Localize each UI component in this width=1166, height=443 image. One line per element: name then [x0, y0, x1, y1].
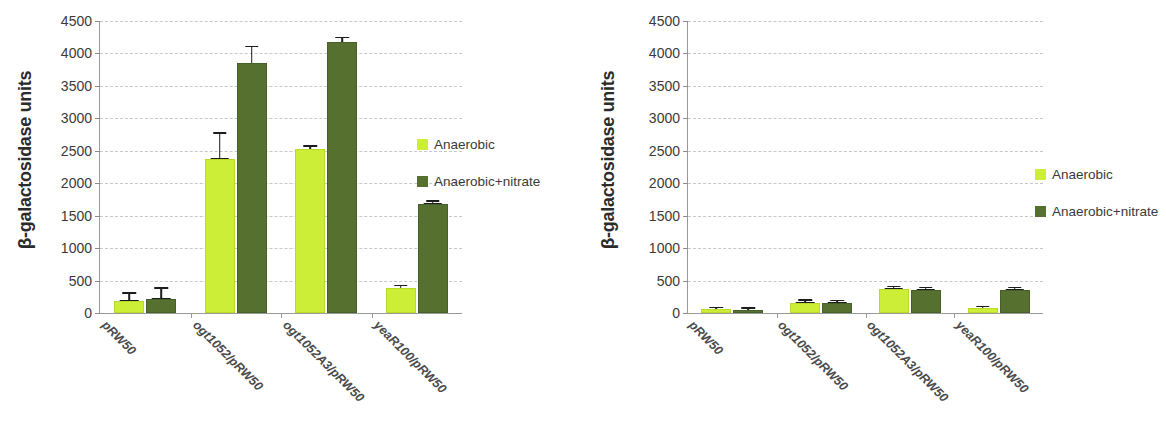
error-bar-cap-top [798, 299, 812, 301]
bar-anaerobic[interactable] [205, 159, 235, 313]
y-axis-tick-label: 1500 [61, 208, 92, 224]
y-axis-tick-label: 3000 [649, 110, 680, 126]
error-bar-cap-top [245, 46, 259, 48]
y-axis-title-beta: β [14, 238, 35, 249]
bar-slot [911, 21, 941, 313]
legend-item-anaerobic: Anaerobic [1035, 167, 1158, 182]
legend-swatch-anaerobic-icon [417, 139, 428, 150]
bar-group [866, 21, 955, 313]
legend-left: Anaerobic Anaerobic+nitrate [417, 137, 540, 211]
bar-anaerobic-nitrate[interactable] [327, 42, 357, 313]
bar-anaerobic-nitrate[interactable] [418, 204, 448, 313]
x-axis-category-label: pRW50 [686, 318, 726, 358]
plot-area-left: 050010001500200025003000350040004500 [100, 21, 462, 313]
x-axis-category-label: ogt1052/pRW50 [190, 318, 266, 394]
bar-anaerobic-nitrate[interactable] [1000, 290, 1030, 313]
y-axis-title-beta: β [597, 238, 618, 249]
bar-slot [386, 21, 416, 313]
y-axis-title-rest: -galactosidase units [15, 71, 35, 238]
y-axis-title-right: β-galactosidase units [591, 0, 625, 320]
bar-anaerobic-nitrate[interactable] [733, 310, 763, 313]
bar-slot [822, 21, 852, 313]
y-axis-tick-label: 1500 [649, 208, 680, 224]
bar-anaerobic[interactable] [114, 301, 144, 313]
legend-swatch-anaerobic-nitrate-icon [417, 176, 428, 187]
error-bar-cap-top [123, 292, 137, 294]
error-bar-cap-top [830, 300, 844, 302]
y-axis-tick-label: 3000 [61, 110, 92, 126]
error-bar-cap-top [155, 287, 169, 289]
y-axis-tick-label: 500 [657, 273, 680, 289]
bar-slot [327, 21, 357, 313]
x-axis-category-label: ogt1052A3/pRW50 [864, 318, 951, 405]
bar-anaerobic-nitrate[interactable] [237, 63, 267, 313]
bar-group [100, 21, 191, 313]
bar-slot [1000, 21, 1030, 313]
bar-anaerobic[interactable] [790, 303, 820, 313]
legend-label-anaerobic: Anaerobic [434, 137, 495, 152]
y-axis-tick-label: 2500 [61, 143, 92, 159]
bar-anaerobic-nitrate[interactable] [911, 290, 941, 313]
bar-anaerobic[interactable] [879, 289, 909, 313]
error-bar-cap-top [976, 306, 990, 308]
error-bar [219, 134, 221, 160]
bar-anaerobic-nitrate[interactable] [146, 299, 176, 313]
y-axis-tick-mark [95, 313, 100, 314]
error-bar-cap-top [887, 286, 901, 288]
y-axis-tick-mark [683, 313, 688, 314]
x-axis-category-label: ogt1052/pRW50 [775, 318, 851, 394]
bar-slot [790, 21, 820, 313]
legend-swatch-anaerobic-icon [1035, 169, 1046, 180]
y-axis-tick-label: 2000 [649, 175, 680, 191]
x-axis-labels-left: pRW50ogt1052/pRW50ogt1052A3/pRW50yeaR100… [100, 318, 462, 438]
y-axis-title-left: β-galactosidase units [8, 0, 42, 320]
bar-group [191, 21, 282, 313]
y-axis-tick-label: 0 [84, 305, 92, 321]
y-axis-tick-label: 2000 [61, 175, 92, 191]
y-axis-tick-label: 3500 [649, 78, 680, 94]
bar-slot [295, 21, 325, 313]
y-axis-tick-label: 3500 [61, 78, 92, 94]
y-axis-tick-label: 4000 [649, 45, 680, 61]
x-axis-labels-right: pRW50ogt1052/pRW50ogt1052A3/pRW50yeaR100… [688, 318, 1043, 438]
bar-anaerobic-nitrate[interactable] [822, 303, 852, 313]
bar-anaerobic[interactable] [701, 309, 731, 313]
legend-swatch-anaerobic-nitrate-icon [1035, 206, 1046, 217]
bar-group [688, 21, 777, 313]
x-axis-category-label: yeaR100/pRW50 [953, 318, 1031, 396]
y-axis-tick-label: 4500 [61, 13, 92, 29]
bar-slot [968, 21, 998, 313]
bar-group [281, 21, 372, 313]
bar-slot [146, 21, 176, 313]
x-axis-category-label: ogt1052A3/pRW50 [280, 318, 367, 405]
bar-slot [733, 21, 763, 313]
legend-right: Anaerobic Anaerobic+nitrate [1035, 167, 1158, 241]
x-axis-category-label: pRW50 [99, 318, 139, 358]
y-axis-tick-label: 2500 [649, 143, 680, 159]
bar-group [777, 21, 866, 313]
chart-panel-left: β-galactosidase units 050010001500200025… [0, 0, 583, 443]
error-bar-cap-top [919, 287, 933, 289]
y-axis-tick-label: 1000 [61, 240, 92, 256]
x-axis-category-label: yeaR100/pRW50 [371, 318, 449, 396]
bar-anaerobic[interactable] [295, 149, 325, 313]
plot-area-right: 050010001500200025003000350040004500 [688, 21, 1043, 313]
figure-two-bar-charts: β-galactosidase units 050010001500200025… [0, 0, 1166, 443]
chart-panel-right: β-galactosidase units 050010001500200025… [583, 0, 1166, 443]
legend-item-anaerobic-nitrate: Anaerobic+nitrate [1035, 204, 1158, 219]
bar-anaerobic[interactable] [968, 308, 998, 313]
error-bar-cap-top [336, 37, 350, 39]
y-axis-tick-label: 500 [69, 273, 92, 289]
bar-anaerobic[interactable] [386, 288, 416, 313]
bar-slot [205, 21, 235, 313]
bar-slot [114, 21, 144, 313]
bar-slot [237, 21, 267, 313]
bar-slot [879, 21, 909, 313]
bar-group [954, 21, 1043, 313]
y-axis-title-rest: -galactosidase units [598, 71, 618, 238]
error-bar-cap-top [213, 132, 227, 134]
bar-slot [701, 21, 731, 313]
legend-item-anaerobic: Anaerobic [417, 137, 540, 152]
y-axis-tick-label: 4500 [649, 13, 680, 29]
y-axis-tick-label: 4000 [61, 45, 92, 61]
